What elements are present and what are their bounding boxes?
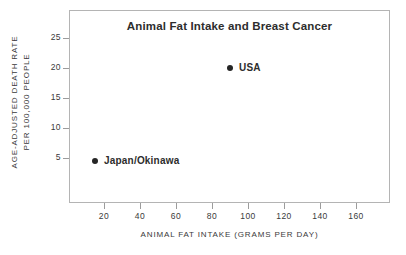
x-tick-label: 120 bbox=[270, 211, 298, 221]
scatter-chart-figure: Animal Fat Intake and Breast Cancer ANIM… bbox=[0, 0, 406, 255]
x-tick-mark bbox=[284, 203, 285, 209]
y-tick-label: 5 bbox=[21, 152, 61, 162]
data-point-label: USA bbox=[239, 62, 261, 73]
data-point-label: Japan/Okinawa bbox=[104, 155, 179, 166]
y-tick-label: 15 bbox=[21, 92, 61, 102]
x-tick-mark bbox=[356, 203, 357, 209]
y-tick-mark bbox=[63, 68, 69, 69]
x-tick-mark bbox=[320, 203, 321, 209]
x-tick-label: 80 bbox=[198, 211, 226, 221]
x-tick-mark bbox=[176, 203, 177, 209]
y-tick-mark bbox=[63, 158, 69, 159]
x-tick-mark bbox=[212, 203, 213, 209]
y-tick-mark bbox=[63, 98, 69, 99]
plot-area-frame bbox=[69, 10, 390, 203]
x-tick-mark bbox=[140, 203, 141, 209]
x-tick-label: 40 bbox=[126, 211, 154, 221]
x-tick-label: 140 bbox=[306, 211, 334, 221]
x-tick-label: 20 bbox=[90, 211, 118, 221]
y-tick-label: 20 bbox=[21, 62, 61, 72]
data-point-marker bbox=[92, 158, 98, 164]
y-tick-mark bbox=[63, 128, 69, 129]
y-axis-title-line-1: AGE-ADJUSTED DEATH RATE bbox=[10, 10, 19, 194]
y-tick-label: 25 bbox=[21, 32, 61, 42]
x-axis-title: ANIMAL FAT INTAKE (GRAMS PER DAY) bbox=[69, 230, 390, 239]
x-tick-label: 60 bbox=[162, 211, 190, 221]
x-tick-mark bbox=[104, 203, 105, 209]
x-tick-label: 160 bbox=[342, 211, 370, 221]
x-tick-mark bbox=[248, 203, 249, 209]
x-tick-label: 100 bbox=[234, 211, 262, 221]
y-tick-mark bbox=[63, 38, 69, 39]
y-tick-label: 10 bbox=[21, 122, 61, 132]
data-point-marker bbox=[227, 65, 233, 71]
chart-title: Animal Fat Intake and Breast Cancer bbox=[69, 20, 390, 32]
